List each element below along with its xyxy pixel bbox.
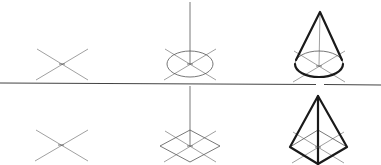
cone-step-3-cone bbox=[293, 12, 345, 82]
divider-line bbox=[0, 83, 381, 85]
pyramid-step-3-pyramid bbox=[290, 96, 347, 164]
cone-step-1-cross bbox=[36, 49, 88, 80]
pyramid-step-1-cross bbox=[35, 130, 88, 161]
pyramid-step-2-diamond bbox=[160, 86, 220, 162]
cone-step-2-ellipse bbox=[164, 2, 216, 80]
construction-diagram bbox=[0, 0, 381, 165]
